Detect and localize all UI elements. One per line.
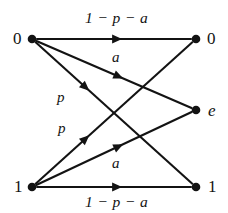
edge-label-upper-p: p — [57, 90, 65, 105]
node-dot-in-1 — [28, 183, 37, 192]
edge-label-lower-p: p — [58, 121, 66, 136]
node-label-input-1: 1 — [14, 178, 23, 195]
edge-label-bottom-expression: 1 − p − a — [85, 194, 148, 210]
graph-canvas — [0, 0, 228, 213]
arrowhead-e-0-0 — [112, 35, 122, 44]
edge-label-top-expression: 1 − p − a — [85, 10, 148, 26]
node-dot-out-0 — [192, 35, 201, 44]
node-label-output-e: e — [208, 102, 216, 119]
node-dot-in-0 — [28, 35, 37, 44]
edge-label-upper-a: a — [112, 50, 120, 65]
node-label-output-1: 1 — [208, 178, 217, 195]
edge-label-lower-a: a — [112, 156, 120, 171]
node-label-output-0: 0 — [207, 30, 216, 47]
channel-diagram-figure: 0 1 0 e 1 1 − p − a a p p a 1 − p − a — [0, 0, 228, 213]
arrowhead-e-1-1 — [112, 183, 122, 192]
node-label-input-0: 0 — [13, 30, 22, 47]
node-dot-out-e — [192, 106, 201, 115]
node-dot-out-1 — [192, 183, 201, 192]
